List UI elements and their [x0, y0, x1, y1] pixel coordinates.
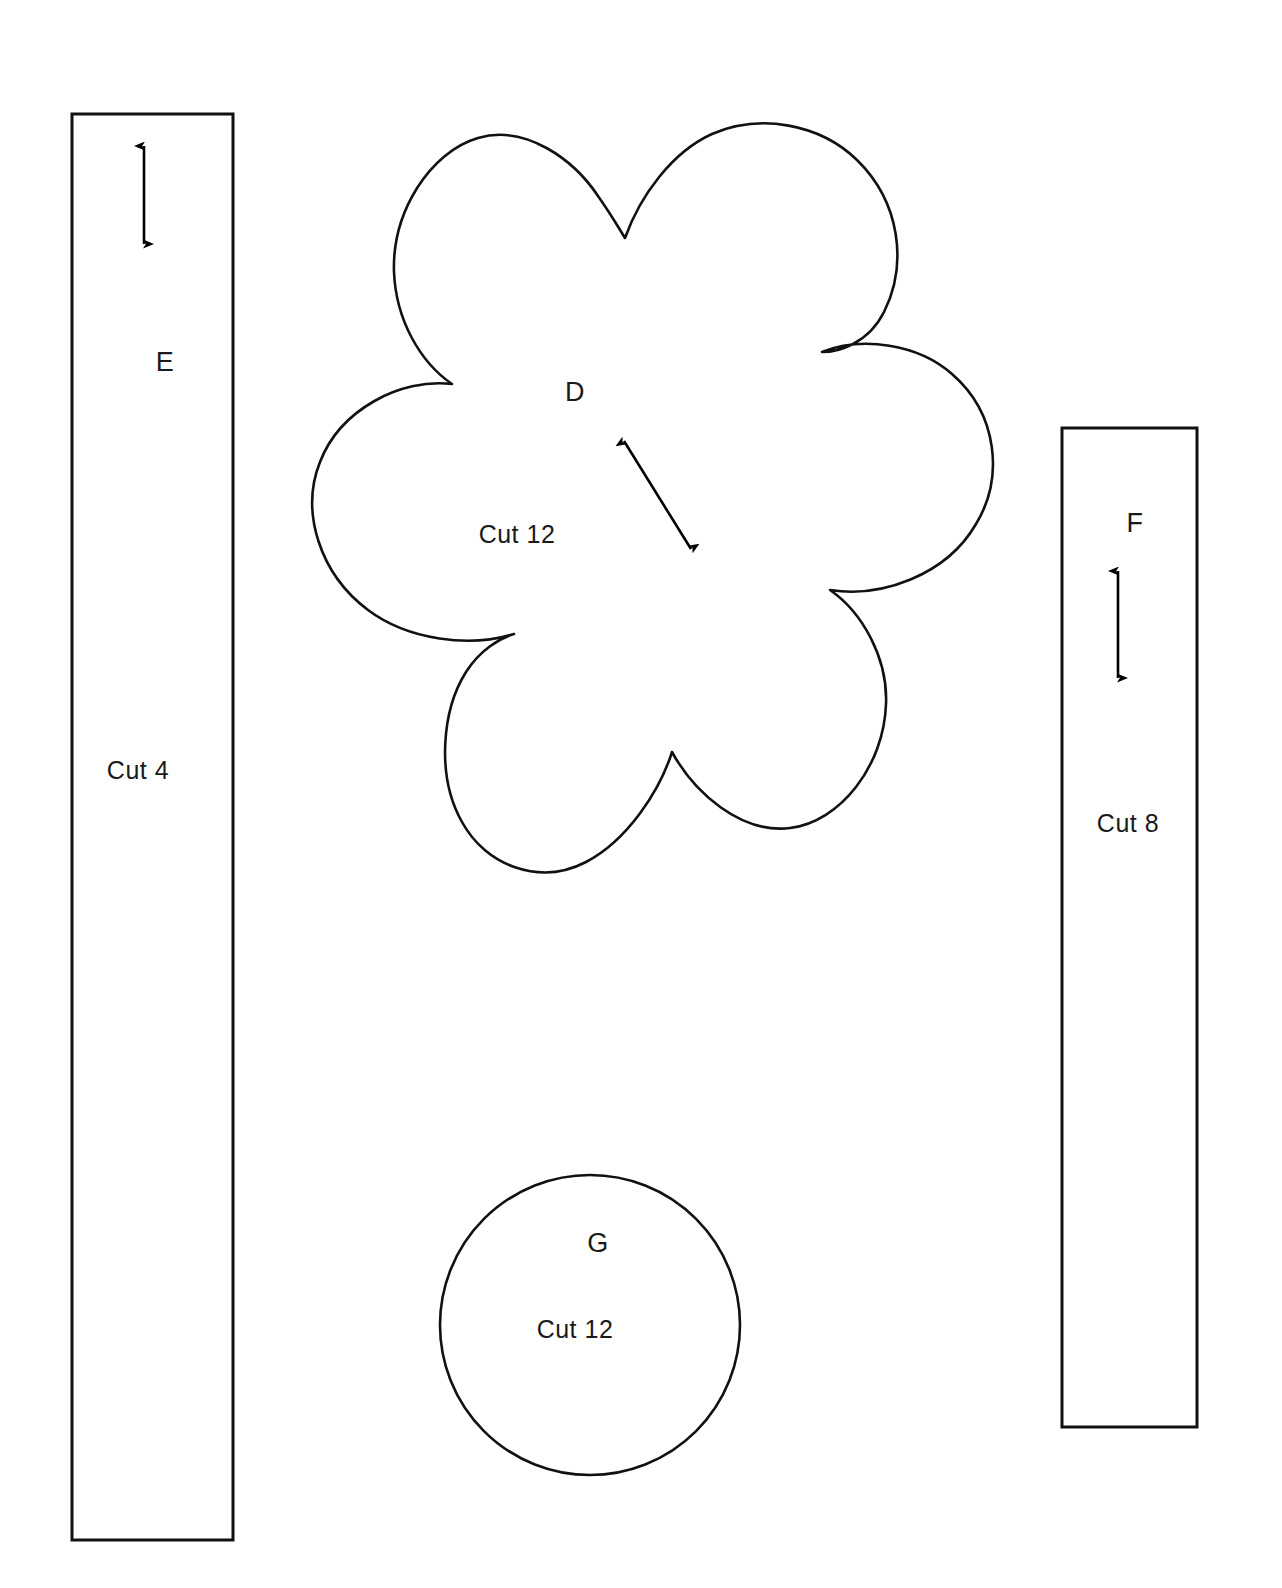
piece-d-cut-label: Cut 12 [479, 522, 556, 547]
piece-e-cut-label: Cut 4 [107, 758, 169, 783]
piece-d-outline [312, 123, 993, 872]
piece-f-cut-label: Cut 8 [1097, 811, 1159, 836]
piece-g-cut-label: Cut 12 [537, 1317, 614, 1342]
piece-d-letter-label: D [565, 379, 585, 406]
piece-g-letter-label: G [587, 1230, 609, 1257]
pattern-sheet: E Cut 4 D Cut 12 F Cut 8 G Cut 12 [0, 0, 1282, 1588]
piece-f-outline [1062, 428, 1197, 1427]
piece-f-letter-label: F [1126, 510, 1143, 537]
pattern-outlines-canvas [0, 0, 1282, 1588]
piece-e-outline [72, 114, 233, 1540]
piece-e-letter-label: E [156, 349, 175, 376]
